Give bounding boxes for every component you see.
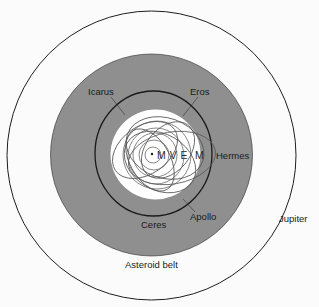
jupiter-label: Jupiter [279,213,308,224]
sun-dot [151,153,153,155]
hermes-label: Hermes [216,150,250,161]
eros-label: Eros [190,86,210,97]
apollo-label: Apollo [190,211,216,222]
icarus-label: Icarus [88,86,114,97]
asteroid-belt-label: Asteroid belt [125,259,178,270]
ceres-label: Ceres [141,219,167,230]
orbit-diagram-svg: M V E M Icarus Eros Hermes Apollo Ceres … [0,0,319,307]
inner-planets-label: M V E M [157,149,204,161]
orbit-diagram: M V E M Icarus Eros Hermes Apollo Ceres … [0,0,319,307]
